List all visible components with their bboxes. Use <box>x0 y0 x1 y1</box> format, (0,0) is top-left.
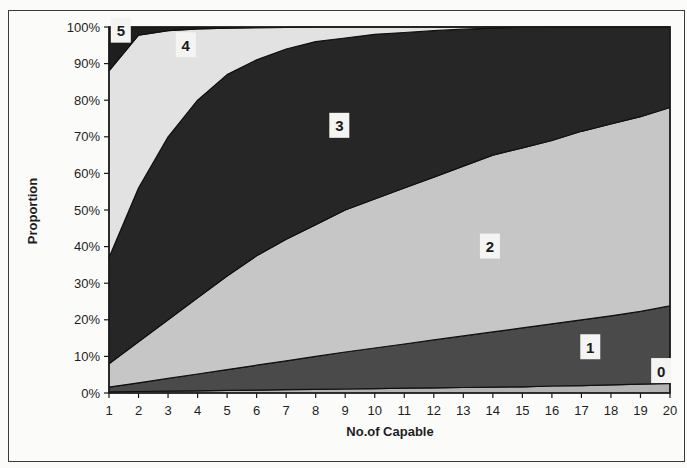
x-tick-label: 19 <box>633 403 647 418</box>
x-tick-label: 20 <box>663 403 677 418</box>
x-tick-label: 5 <box>223 403 230 418</box>
y-tick-label: 10% <box>74 349 100 364</box>
area-label-0: 0 <box>651 358 671 383</box>
svg-text:2: 2 <box>486 238 494 255</box>
x-tick-label: 11 <box>398 403 412 418</box>
x-tick-label: 13 <box>456 403 470 418</box>
y-tick-label: 50% <box>74 203 100 218</box>
x-tick-label: 16 <box>545 403 559 418</box>
y-tick-label: 30% <box>74 276 100 291</box>
y-axis-title: Proportion <box>25 178 40 244</box>
y-tick-label: 0% <box>81 386 100 401</box>
x-tick-label: 6 <box>253 403 260 418</box>
y-tick-label: 20% <box>74 312 100 327</box>
area-label-3: 3 <box>329 113 349 138</box>
stacked-area-chart: 0%10%20%30%40%50%60%70%80%90%100%1234567… <box>0 0 687 468</box>
y-tick-label: 100% <box>67 20 101 35</box>
svg-text:4: 4 <box>182 37 191 54</box>
x-tick-label: 15 <box>515 403 529 418</box>
x-tick-label: 1 <box>105 403 112 418</box>
svg-text:3: 3 <box>335 117 343 134</box>
svg-text:1: 1 <box>586 339 594 356</box>
y-tick-label: 40% <box>74 239 100 254</box>
x-axis-title: No.of Capable <box>346 424 433 439</box>
x-tick-label: 7 <box>283 403 290 418</box>
y-tick-label: 60% <box>74 166 100 181</box>
x-tick-label: 17 <box>574 403 588 418</box>
y-tick-label: 80% <box>74 93 100 108</box>
area-label-5: 5 <box>111 18 131 43</box>
y-tick-label: 90% <box>74 56 100 71</box>
x-tick-label: 8 <box>312 403 319 418</box>
svg-text:0: 0 <box>657 363 665 380</box>
x-tick-label: 2 <box>135 403 142 418</box>
area-label-1: 1 <box>580 334 600 359</box>
x-tick-label: 10 <box>368 403 382 418</box>
area-label-2: 2 <box>480 234 500 259</box>
x-tick-label: 18 <box>604 403 618 418</box>
x-tick-label: 3 <box>164 403 171 418</box>
y-tick-label: 70% <box>74 129 100 144</box>
x-tick-label: 4 <box>194 403 201 418</box>
x-tick-label: 9 <box>342 403 349 418</box>
svg-text:5: 5 <box>117 22 125 39</box>
x-tick-label: 14 <box>486 403 500 418</box>
x-tick-label: 12 <box>427 403 441 418</box>
area-label-4: 4 <box>176 32 196 57</box>
